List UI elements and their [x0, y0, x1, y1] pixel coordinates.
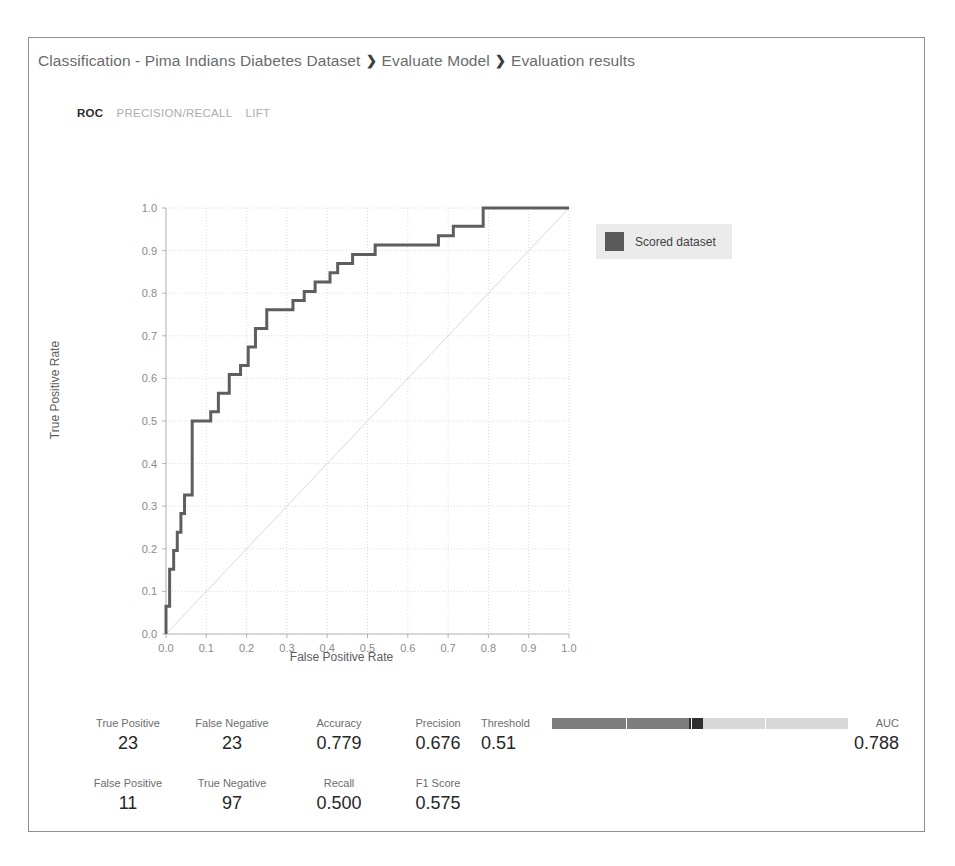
metric-accuracy: Accuracy 0.779 [287, 716, 391, 755]
metric-value: 0.500 [287, 791, 391, 815]
metric-precision: Precision 0.676 [386, 716, 490, 755]
threshold-slider-fill [552, 718, 703, 729]
threshold-slider[interactable] [552, 718, 848, 729]
metric-value: 23 [180, 731, 284, 755]
metric-label: True Positive [76, 716, 180, 730]
metric-label: Precision [386, 716, 490, 730]
metric-true-negative: True Negative 97 [180, 776, 284, 815]
metric-label: F1 Score [386, 776, 490, 790]
svg-text:1.0: 1.0 [561, 642, 576, 654]
metric-label: False Positive [76, 776, 180, 790]
svg-text:0.6: 0.6 [142, 372, 157, 384]
y-axis-title: True Positive Rate [48, 320, 62, 460]
metric-label: True Negative [180, 776, 284, 790]
threshold-slider-tick [765, 718, 766, 729]
threshold-value: 0.51 [481, 731, 530, 755]
metric-value: 97 [180, 791, 284, 815]
metric-value: 23 [76, 731, 180, 755]
roc-chart: 0.00.00.10.10.20.20.30.30.40.40.50.50.60… [29, 38, 926, 698]
metric-label: False Negative [180, 716, 284, 730]
svg-text:0.8: 0.8 [142, 287, 157, 299]
metric-value: 0.779 [287, 731, 391, 755]
roc-plot-svg: 0.00.00.10.10.20.20.30.30.40.40.50.50.60… [29, 38, 926, 698]
threshold-slider-tick [626, 718, 627, 729]
chart-legend: Scored dataset [596, 224, 732, 259]
metrics-panel: True Positive 23 False Negative 23 False… [29, 698, 926, 833]
svg-text:0.1: 0.1 [142, 585, 157, 597]
threshold-readout: Threshold 0.51 [481, 716, 530, 755]
metric-true-positive: True Positive 23 [76, 716, 180, 755]
metric-value: 11 [76, 791, 180, 815]
metric-false-negative: False Negative 23 [180, 716, 284, 755]
svg-text:0.7: 0.7 [142, 330, 157, 342]
legend-swatch-icon [605, 232, 624, 251]
metric-value: 0.575 [386, 791, 490, 815]
metric-recall: Recall 0.500 [287, 776, 391, 815]
metric-value: 0.676 [386, 731, 490, 755]
svg-text:1.0: 1.0 [142, 202, 157, 214]
threshold-label: Threshold [481, 716, 530, 730]
svg-text:0.4: 0.4 [142, 458, 157, 470]
svg-text:0.0: 0.0 [142, 628, 157, 640]
auc-readout: AUC 0.788 [809, 716, 899, 755]
metric-label: Recall [287, 776, 391, 790]
threshold-slider-tick [691, 718, 692, 729]
metric-f1-score: F1 Score 0.575 [386, 776, 490, 815]
metric-false-positive: False Positive 11 [76, 776, 180, 815]
evaluation-results-card: Classification - Pima Indians Diabetes D… [28, 37, 925, 832]
svg-text:0.2: 0.2 [142, 543, 157, 555]
x-axis-title: False Positive Rate [139, 650, 544, 664]
legend-label: Scored dataset [635, 235, 716, 249]
metric-label: Accuracy [287, 716, 391, 730]
auc-value: 0.788 [809, 731, 899, 755]
svg-text:0.3: 0.3 [142, 500, 157, 512]
svg-text:0.5: 0.5 [142, 415, 157, 427]
svg-text:0.9: 0.9 [142, 245, 157, 257]
auc-label: AUC [809, 716, 899, 730]
